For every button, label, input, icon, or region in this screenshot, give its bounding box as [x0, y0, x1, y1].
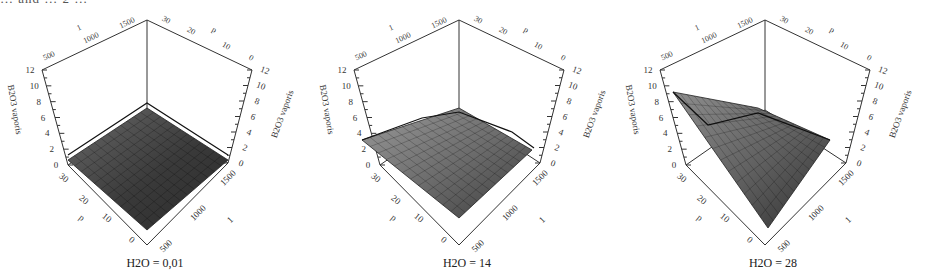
- z-axis-label-left: B2O3 vaporis: [6, 84, 25, 136]
- p-tick: 20: [804, 25, 815, 37]
- p-tick: 20: [186, 25, 197, 37]
- t-tick: 500: [470, 237, 487, 254]
- p-tick: 30: [57, 171, 71, 185]
- z-tick-right: 12: [571, 64, 583, 76]
- p-tick: 20: [695, 193, 709, 207]
- z-tick-right: 2: [241, 142, 249, 153]
- z-tick-right: 6: [867, 111, 875, 122]
- t-axis-label: 1: [387, 23, 394, 33]
- p-axis-label: p: [77, 212, 87, 223]
- z-tick-right: 10: [567, 79, 579, 92]
- z-tick-right: 8: [565, 96, 573, 107]
- t-axis-label: 1: [225, 215, 235, 225]
- surface-plot: 024681012024681012B2O3 vaporisB2O3 vapor…: [312, 0, 622, 275]
- z-axis-label-right: B2O3 vaporis: [887, 88, 914, 139]
- p-tick: 30: [675, 171, 689, 185]
- z-tick-right: 12: [877, 64, 889, 76]
- p-tick: 10: [412, 211, 426, 225]
- p-tick: 30: [161, 14, 172, 26]
- z-axis-label-right: B2O3 vaporis: [269, 88, 296, 139]
- t-tick: 500: [354, 49, 369, 62]
- p-tick: 0: [745, 234, 755, 245]
- z-tick-right: 4: [245, 127, 253, 138]
- panel-caption: H2O = 14: [312, 256, 622, 271]
- z-tick-right: 6: [249, 111, 257, 122]
- z-tick-left: 10: [648, 81, 658, 91]
- t-axis-label: 1: [75, 23, 82, 33]
- p-tick: 20: [389, 193, 403, 207]
- surface-mesh: [673, 92, 830, 228]
- p-tick: 0: [127, 234, 137, 245]
- panel-caption: H2O = 28: [618, 256, 928, 271]
- surface-plot: 024681012024681012B2O3 vaporisB2O3 vapor…: [0, 0, 310, 275]
- z-tick-left: 4: [45, 128, 50, 138]
- p-tick: 0: [865, 53, 873, 63]
- z-tick-left: 8: [36, 97, 41, 107]
- t-axis-label: 1: [843, 215, 853, 225]
- surface-plot: 024681012024681012B2O3 vaporisB2O3 vapor…: [618, 0, 928, 275]
- z-tick-left: 8: [348, 97, 353, 107]
- z-tick-left: 6: [353, 113, 358, 123]
- t-tick: 1500: [430, 15, 448, 30]
- p-tick: 0: [247, 53, 255, 63]
- z-tick-right: 0: [237, 158, 245, 169]
- z-tick-left: 4: [357, 128, 362, 138]
- z-tick-right: 8: [871, 96, 879, 107]
- t-tick: 1500: [736, 15, 754, 30]
- p-tick: 0: [559, 53, 567, 63]
- z-tick-right: 8: [253, 96, 261, 107]
- t-tick: 1000: [500, 203, 520, 223]
- p-tick: 10: [839, 40, 850, 52]
- t-tick: 1500: [118, 15, 136, 30]
- p-tick: 30: [473, 14, 484, 26]
- t-tick: 1000: [82, 30, 100, 45]
- z-tick-left: 2: [667, 144, 672, 154]
- p-axis-label: p: [389, 212, 399, 223]
- p-tick: 20: [77, 193, 91, 207]
- z-axis-label-left: B2O3 vaporis: [318, 84, 337, 136]
- z-tick-left: 10: [342, 81, 352, 91]
- z-tick-right: 0: [855, 158, 863, 169]
- t-tick: 1000: [700, 30, 718, 45]
- z-tick-right: 10: [873, 79, 885, 92]
- p-tick: 0: [439, 234, 449, 245]
- t-tick: 500: [158, 237, 175, 254]
- z-tick-left: 0: [54, 160, 59, 170]
- t-tick: 1000: [188, 203, 208, 223]
- t-tick: 500: [42, 49, 57, 62]
- surface-chart-1: 024681012024681012B2O3 vaporisB2O3 vapor…: [0, 0, 310, 275]
- z-tick-left: 2: [49, 144, 54, 154]
- z-tick-left: 12: [338, 65, 347, 75]
- z-tick-right: 10: [255, 79, 267, 92]
- z-tick-left: 6: [659, 113, 664, 123]
- z-tick-left: 2: [361, 144, 366, 154]
- z-axis-label-right: B2O3 vaporis: [581, 88, 608, 139]
- z-tick-left: 6: [41, 113, 46, 123]
- t-tick: 500: [660, 49, 675, 62]
- t-axis-label: 1: [693, 23, 700, 33]
- p-tick: 20: [498, 25, 509, 37]
- z-tick-left: 0: [366, 160, 371, 170]
- p-tick: 10: [100, 211, 114, 225]
- p-axis-label: p: [828, 25, 836, 35]
- p-tick: 30: [779, 14, 790, 26]
- z-tick-right: 6: [561, 111, 569, 122]
- z-tick-right: 12: [259, 64, 271, 76]
- p-axis-label: p: [210, 25, 218, 35]
- t-axis-label: 1: [537, 215, 547, 225]
- t-tick: 500: [776, 237, 793, 254]
- panel-caption: H2O = 0,01: [0, 256, 310, 271]
- p-tick: 10: [221, 40, 232, 52]
- p-tick: 10: [533, 40, 544, 52]
- surface-chart-2: 024681012024681012B2O3 vaporisB2O3 vapor…: [312, 0, 622, 275]
- z-tick-left: 12: [26, 65, 35, 75]
- surface-chart-3: 024681012024681012B2O3 vaporisB2O3 vapor…: [618, 0, 928, 275]
- z-tick-left: 0: [672, 160, 677, 170]
- z-tick-left: 8: [654, 97, 659, 107]
- z-tick-left: 10: [30, 81, 40, 91]
- z-tick-right: 4: [557, 127, 565, 138]
- z-tick-right: 2: [553, 142, 561, 153]
- z-tick-right: 4: [863, 127, 871, 138]
- z-tick-left: 4: [663, 128, 668, 138]
- z-tick-right: 0: [549, 158, 557, 169]
